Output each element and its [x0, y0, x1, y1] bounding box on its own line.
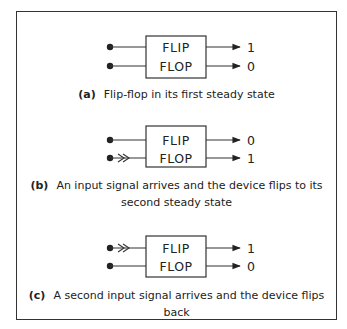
output-top-value: 0 — [247, 133, 255, 148]
box-label-flop: FLOP — [159, 259, 192, 274]
panel-c: FLIP FLOP 1 0 — [107, 236, 255, 277]
caption-tag: (a) — [78, 88, 95, 101]
output-bottom-value: 0 — [247, 59, 255, 74]
output-bottom-value: 0 — [247, 259, 255, 274]
caption-tag: (c) — [29, 289, 46, 302]
box-label-flip: FLIP — [162, 40, 189, 55]
caption-text: Flip-flop in its first steady state — [104, 88, 275, 101]
caption-tag: (b) — [30, 179, 48, 192]
caption-text: A second input signal arrives and the de… — [53, 289, 324, 319]
panel-b: FLIP FLOP 0 1 — [107, 126, 255, 167]
caption-c: (c)A second input signal arrives and the… — [16, 287, 337, 321]
caption-a: (a)Flip-flop in its first steady state — [16, 86, 337, 103]
caption-b: (b)An input signal arrives and the devic… — [16, 177, 337, 211]
caption-text-line1: An input signal arrives and the device f… — [56, 179, 322, 192]
box-label-flop: FLOP — [159, 59, 192, 74]
panel-a: FLIP FLOP 1 0 — [107, 36, 255, 78]
output-top-value: 1 — [247, 241, 255, 256]
box-label-flip: FLIP — [162, 241, 189, 256]
box-label-flip: FLIP — [162, 133, 189, 148]
box-label-flop: FLOP — [159, 151, 192, 166]
output-bottom-value: 1 — [247, 151, 255, 166]
flip-flop-diagram: FLIP FLOP 1 0 FLIP FLOP 0 1 FL — [0, 0, 347, 329]
output-top-value: 1 — [247, 40, 255, 55]
caption-text-line2: second steady state — [16, 194, 337, 211]
